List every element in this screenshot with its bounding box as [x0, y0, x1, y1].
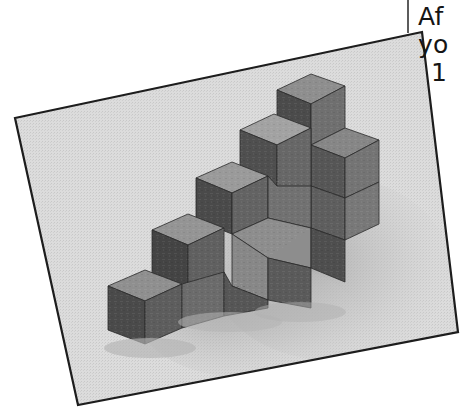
- cube-bottom-right: [224, 272, 268, 316]
- cube-center: [268, 176, 311, 228]
- cube-right-lower: [311, 228, 345, 282]
- scanned-page: Af yo 1: [0, 0, 468, 411]
- text-line-1: Af: [418, 4, 444, 29]
- column-rule: [407, 0, 409, 33]
- photo-border: [15, 32, 458, 405]
- cube-bottom-mid: [182, 272, 224, 328]
- cube-step3-right: [311, 128, 379, 198]
- text-line-3: 1: [431, 60, 447, 85]
- cube-col-right-mid: [311, 182, 379, 240]
- cube-top: [277, 74, 345, 145]
- text-line-2: yo: [418, 32, 449, 57]
- cube-step2-left: [196, 162, 268, 234]
- cube-photograph: [0, 0, 468, 411]
- cube-step1-left: [152, 214, 224, 288]
- cube-step3-left: [240, 114, 311, 204]
- text-column: Af yo 1: [417, 0, 468, 110]
- cube-bottom-left: [108, 270, 182, 344]
- cube-photograph-svg: [0, 0, 468, 411]
- cube-center-lower: [232, 218, 311, 308]
- photo-interior: [15, 32, 458, 405]
